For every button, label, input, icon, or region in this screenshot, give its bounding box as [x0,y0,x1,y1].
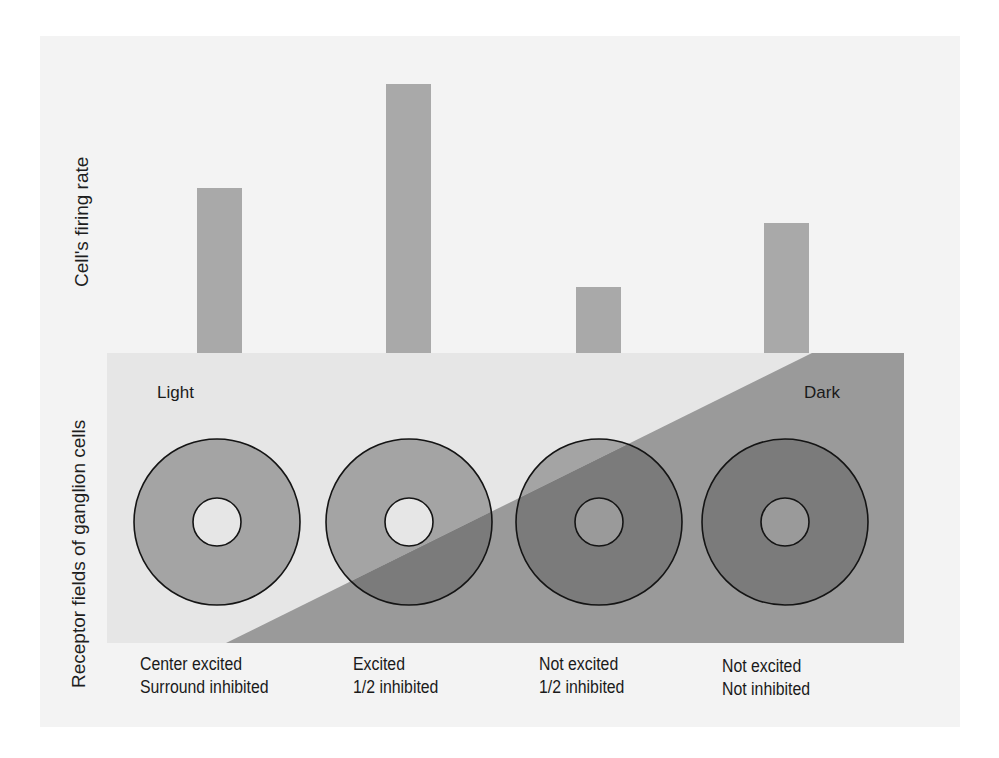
receptive-field-1 [134,439,300,605]
cell-caption-1-line1: Center excited [140,653,269,676]
cell-caption-3: Not excited 1/2 inhibited [539,653,624,699]
cell-caption-4-line2: Not inhibited [722,678,810,701]
receptive-field-2 [326,439,492,605]
cell-caption-2-line2: 1/2 inhibited [353,676,438,699]
receptor-fields-axis-label: Receptor fields of ganglion cells [68,420,90,688]
firing-rate-bar-1 [197,188,242,353]
dark-label: Dark [804,383,840,403]
receptive-field-4 [702,439,868,605]
firing-rate-bar-4 [764,223,809,353]
cell-caption-2-line1: Excited [353,653,438,676]
cell-caption-3-line2: 1/2 inhibited [539,676,624,699]
cell-caption-3-line1: Not excited [539,653,624,676]
cell-caption-4: Not excited Not inhibited [722,655,810,701]
cell-caption-2: Excited 1/2 inhibited [353,653,438,699]
cell-caption-1: Center excited Surround inhibited [140,653,269,699]
cell-caption-4-line1: Not excited [722,655,810,678]
figure-canvas [0,0,999,758]
firing-rate-bar-2 [386,84,431,353]
receptive-field-3 [516,439,682,605]
ganglion-receptive-field-figure: Cell's firing rate Receptor fields of ga… [0,0,999,758]
firing-rate-bar-3 [576,287,621,353]
firing-rate-axis-label: Cell's firing rate [71,157,93,287]
light-label: Light [157,383,194,403]
cell-caption-1-line2: Surround inhibited [140,676,269,699]
